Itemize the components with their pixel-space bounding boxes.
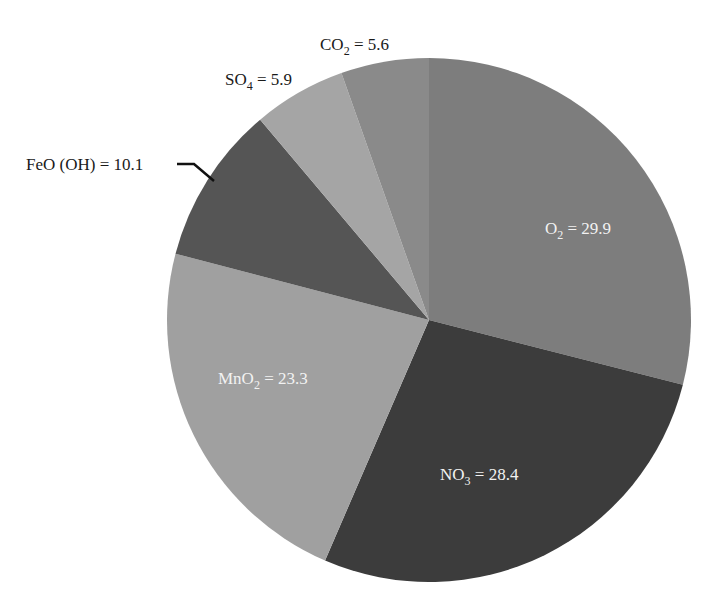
pie-slices	[167, 58, 691, 582]
slice-label: FeO (OH) = 10.1	[26, 155, 143, 174]
leader-line	[177, 164, 214, 181]
pie-chart: O2 = 29.9NO3 = 28.4MnO2 = 23.3FeO (OH) =…	[0, 0, 722, 615]
slice-label: CO2 = 5.6	[320, 35, 389, 58]
leader-lines	[177, 164, 214, 181]
slice-label: SO4 = 5.9	[225, 70, 292, 93]
